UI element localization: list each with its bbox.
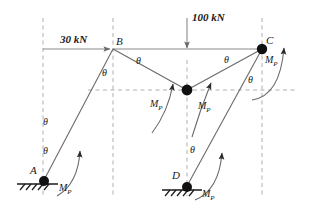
support-hatch-a1 (20, 184, 25, 190)
member-b-center (113, 49, 187, 90)
mp-label-c: MP (265, 55, 278, 68)
theta-label-c-below: θ (248, 75, 253, 85)
mp-label-d-sub: P (210, 194, 214, 202)
mp-label-center-right: MP (198, 101, 211, 114)
support-hatch-a2 (26, 184, 31, 190)
theta-label-d: θ (190, 145, 195, 155)
mp-label-a-sub: P (67, 188, 71, 196)
theta-label-a-upper: θ (43, 117, 48, 127)
node-label-d: D (172, 170, 180, 181)
mp-label-center-left: MP (150, 99, 163, 112)
mp-label-center-right-sub: P (206, 106, 210, 114)
mp-label-center-left-sub: P (158, 104, 162, 112)
node-center-hinge-dot (182, 85, 193, 96)
support-hatch-d3 (177, 190, 182, 196)
theta-label-b-below: θ (102, 68, 107, 78)
node-label-b: B (116, 36, 123, 47)
theta-label-c-left: θ (224, 55, 229, 65)
node-a-dot (39, 176, 49, 186)
mp-label-d: MP (202, 189, 215, 202)
frame-mechanism-diagram: A B C D 30 kN 100 kN θ θ θ θ θ θ θ MP MP… (0, 0, 309, 210)
node-label-a: A (30, 165, 37, 176)
node-d-dot (182, 182, 192, 192)
support-hatch-d2 (171, 190, 176, 196)
support-hatch-a3 (32, 184, 37, 190)
mp-label-c-sub: P (273, 60, 277, 68)
load-label-30kn: 30 kN (60, 34, 87, 45)
load-label-100kn: 100 kN (192, 12, 225, 23)
support-hatch-d1 (165, 190, 170, 196)
mp-label-a: MP (59, 183, 72, 196)
theta-label-b-right: θ (136, 56, 141, 66)
node-label-c: C (266, 35, 273, 46)
theta-label-a-lower: θ (43, 146, 48, 156)
